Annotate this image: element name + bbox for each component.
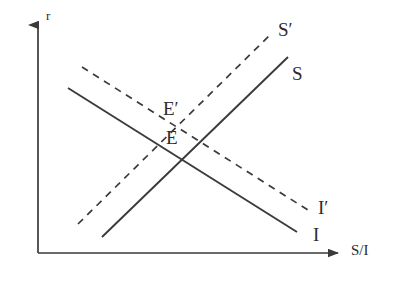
equilibrium-label-e: E	[166, 128, 178, 147]
curve-label-i-prime: I′	[318, 198, 329, 217]
equilibrium-label-e-prime-mark: ′	[175, 99, 179, 119]
curve-label-s-prime-text: S	[278, 19, 289, 40]
equilibrium-label-e-prime-text: E	[163, 98, 175, 119]
curve-label-s-prime-mark: ′	[289, 20, 293, 40]
curve-i	[68, 88, 297, 232]
equilibrium-label-e-prime: E′	[163, 99, 179, 118]
y-axis-label: r	[46, 9, 50, 22]
curve-s	[102, 57, 288, 237]
economics-diagram: r S/I S′ S I′ I E′ E	[0, 0, 412, 284]
curve-label-i: I	[313, 225, 319, 244]
curve-label-i-prime-mark: ′	[324, 198, 328, 218]
curve-label-s-prime: S′	[278, 20, 293, 39]
x-axis-label: S/I	[351, 243, 369, 258]
curve-i-prime	[82, 67, 311, 212]
curve-label-s: S	[292, 64, 303, 83]
